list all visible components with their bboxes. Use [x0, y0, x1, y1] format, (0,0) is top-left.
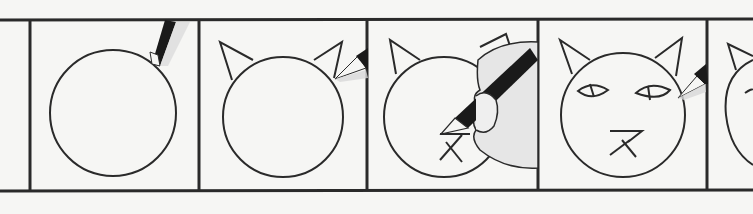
pencil-icon [150, 20, 190, 66]
head-circle-partial [726, 60, 753, 165]
head-circle [561, 53, 685, 177]
comic-strip-canvas [0, 0, 753, 214]
mouth-stroke [622, 140, 636, 157]
panel-5 [726, 44, 753, 165]
left-ear [560, 40, 590, 74]
panel-2 [220, 42, 368, 177]
nose [610, 131, 642, 142]
panel-3 [384, 34, 538, 177]
left-ear [390, 40, 420, 74]
left-ear [220, 42, 253, 80]
panel-1 [50, 20, 190, 176]
head-circle [223, 57, 343, 177]
left-ear [728, 44, 753, 70]
right-ear [655, 38, 682, 76]
pencil-icon [678, 64, 708, 100]
strip-frame [0, 19, 753, 191]
right-eye [636, 86, 670, 97]
right-ear [314, 42, 342, 78]
head-circle [50, 50, 176, 176]
hand-with-pencil-icon [441, 42, 538, 168]
panel-4 [560, 38, 708, 177]
drawing-strip [0, 0, 753, 214]
